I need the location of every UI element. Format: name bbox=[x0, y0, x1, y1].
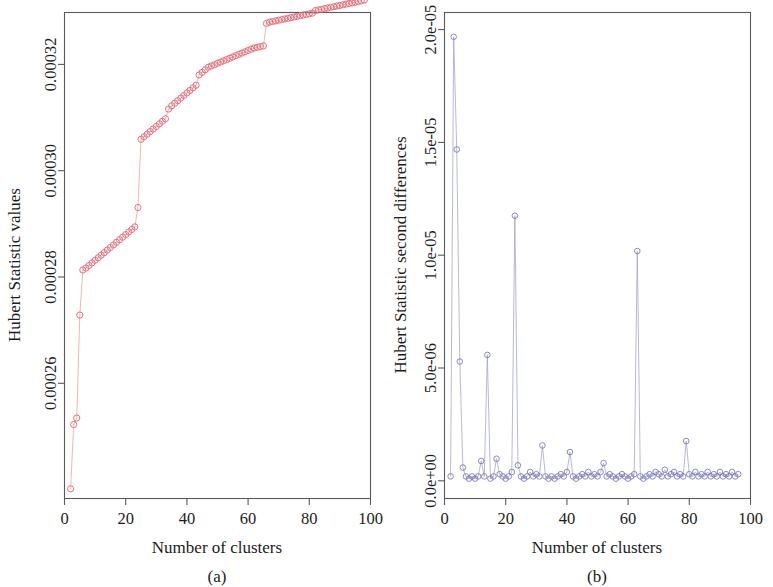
plot-b-xtick-4: 80 bbox=[681, 509, 698, 528]
plot-a-ytick-0: 0.00026 bbox=[41, 356, 60, 410]
plot-b-caption: (b) bbox=[587, 567, 607, 586]
plot-a-x-ticks bbox=[65, 499, 371, 506]
plot-a-xtick-3: 60 bbox=[240, 509, 257, 528]
plot-b-ytick-4: 2.0e-05 bbox=[421, 5, 440, 55]
plot-a-y-axis-title: Hubert Statistic values bbox=[5, 188, 24, 342]
plot-a-frame bbox=[65, 13, 371, 499]
plot-a-ytick-3: 0.00032 bbox=[41, 38, 60, 92]
plot-a-ytick-2: 0.00030 bbox=[41, 144, 60, 198]
plot-b-ytick-0: 0.0e+00 bbox=[421, 454, 440, 508]
plot-b-series bbox=[448, 34, 741, 481]
plot-a-x-axis-title: Number of clusters bbox=[152, 538, 282, 557]
plot-a-svg: 0.00026 0.00028 0.00030 0.00032 0 20 40 … bbox=[0, 0, 392, 587]
figure-container: 0.00026 0.00028 0.00030 0.00032 0 20 40 … bbox=[0, 0, 773, 587]
plot-b-ytick-3: 1.5e-05 bbox=[421, 117, 440, 167]
plot-a-y-ticks bbox=[58, 64, 65, 383]
plot-b-xtick-0: 0 bbox=[440, 509, 448, 528]
plot-b-frame bbox=[445, 13, 751, 499]
plot-a-xtick-5: 100 bbox=[358, 509, 383, 528]
plot-a-x-ticklabels: 0 20 40 60 80 100 bbox=[60, 509, 383, 528]
plot-b-x-ticks bbox=[445, 499, 751, 506]
plot-a-xtick-2: 40 bbox=[179, 509, 196, 528]
plot-b-xtick-3: 60 bbox=[620, 509, 637, 528]
plot-a-series bbox=[68, 0, 368, 492]
plot-b-y-axis-title: Hubert Statistic second differences bbox=[392, 136, 410, 373]
plot-b-x-axis-title: Number of clusters bbox=[532, 538, 662, 557]
plot-a-caption: (a) bbox=[208, 567, 227, 586]
plot-b-ytick-1: 5.0e-06 bbox=[421, 343, 440, 393]
panel-b: 0.0e+00 5.0e-06 1.0e-05 1.5e-05 2.0e-05 … bbox=[392, 0, 773, 587]
plot-a-xtick-0: 0 bbox=[60, 509, 68, 528]
plot-b-svg: 0.0e+00 5.0e-06 1.0e-05 1.5e-05 2.0e-05 … bbox=[392, 0, 773, 587]
plot-b-xtick-5: 100 bbox=[738, 509, 763, 528]
panel-a: 0.00026 0.00028 0.00030 0.00032 0 20 40 … bbox=[0, 0, 392, 587]
plot-b-y-ticklabels: 0.0e+00 5.0e-06 1.0e-05 1.5e-05 2.0e-05 bbox=[421, 5, 440, 508]
plot-b-ytick-2: 1.0e-05 bbox=[421, 230, 440, 280]
plot-b-x-ticklabels: 0 20 40 60 80 100 bbox=[440, 509, 763, 528]
plot-a-y-ticklabels: 0.00026 0.00028 0.00030 0.00032 bbox=[41, 38, 60, 411]
plot-a-xtick-4: 80 bbox=[301, 509, 318, 528]
plot-a-ytick-1: 0.00028 bbox=[41, 250, 60, 304]
plot-a-xtick-1: 20 bbox=[117, 509, 134, 528]
series-polyline bbox=[451, 37, 739, 479]
plot-b-xtick-1: 20 bbox=[497, 509, 514, 528]
plot-b-xtick-2: 40 bbox=[559, 509, 576, 528]
